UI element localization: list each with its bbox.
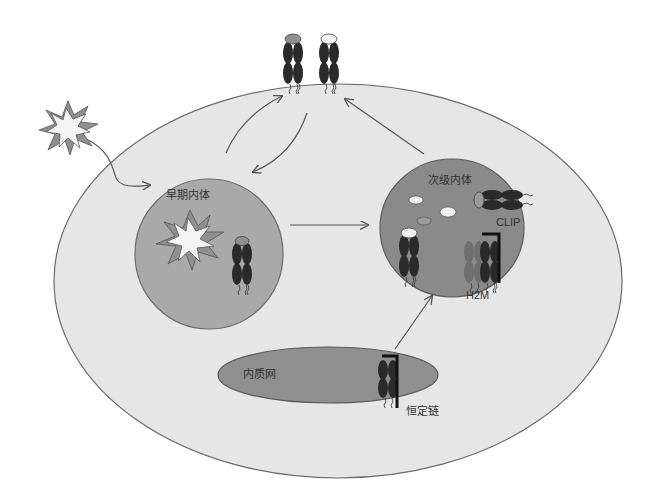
peptide-white-icon bbox=[321, 34, 337, 44]
er-label: 内质网 bbox=[243, 367, 276, 381]
peptide-white-icon bbox=[440, 207, 456, 217]
h2m-label: H2M bbox=[466, 289, 489, 301]
surface-mhc-with-peptide bbox=[283, 34, 303, 94]
invariant-chain-label: 恒定链 bbox=[406, 404, 439, 418]
peptide-grey-icon bbox=[285, 34, 301, 44]
early-endosome-label: 早期内体 bbox=[166, 188, 210, 202]
peptide-grey-icon bbox=[417, 217, 431, 225]
peptide-white-icon bbox=[409, 196, 423, 204]
mhc-pathway-diagram: 早期内体 次级内体 CLIP bbox=[0, 0, 658, 485]
clip-label: CLIP bbox=[496, 216, 520, 228]
antigen-star-icon bbox=[39, 101, 98, 155]
late-endosome-label: 次级内体 bbox=[428, 173, 472, 187]
